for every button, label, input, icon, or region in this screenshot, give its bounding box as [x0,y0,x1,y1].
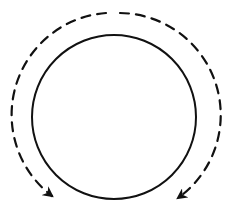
inner-circle [32,35,196,199]
diagram-canvas [0,0,227,219]
right-dashed-arrow-arc [120,13,221,198]
diagram-svg [0,0,227,219]
left-dashed-arrow-arc [12,13,106,196]
